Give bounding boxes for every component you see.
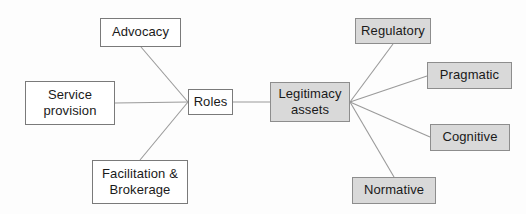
edge-service-roles xyxy=(115,102,188,103)
node-legitimacy-assets-label: Legitimacy assets xyxy=(274,86,345,119)
node-facilitation-brokerage[interactable]: Facilitation & Brokerage xyxy=(92,160,188,204)
node-regulatory-label: Regulatory xyxy=(357,23,429,39)
node-roles[interactable]: Roles xyxy=(188,89,233,115)
node-pragmatic[interactable]: Pragmatic xyxy=(427,62,512,89)
node-advocacy[interactable]: Advocacy xyxy=(100,18,181,47)
node-cognitive[interactable]: Cognitive xyxy=(430,124,510,151)
node-cognitive-label: Cognitive xyxy=(438,129,501,145)
node-normative[interactable]: Normative xyxy=(352,177,436,204)
node-regulatory[interactable]: Regulatory xyxy=(355,18,431,44)
edge-legitimacy-regulatory xyxy=(350,44,393,102)
node-roles-label: Roles xyxy=(190,94,232,110)
node-service-provision-label: Service provision xyxy=(40,87,101,120)
edge-facilitation-roles xyxy=(140,102,188,160)
node-advocacy-label: Advocacy xyxy=(108,24,173,40)
node-legitimacy-assets[interactable]: Legitimacy assets xyxy=(270,82,350,122)
diagram-canvas: Advocacy Service provision Facilitation … xyxy=(0,0,526,214)
edge-legitimacy-cognitive xyxy=(350,102,430,137)
edge-legitimacy-pragmatic xyxy=(350,76,427,102)
node-pragmatic-label: Pragmatic xyxy=(436,67,503,83)
edge-advocacy-roles xyxy=(141,47,188,102)
node-normative-label: Normative xyxy=(360,182,428,198)
node-facilitation-brokerage-label: Facilitation & Brokerage xyxy=(98,166,182,199)
edge-legitimacy-normative xyxy=(350,102,394,177)
node-service-provision[interactable]: Service provision xyxy=(25,81,115,125)
